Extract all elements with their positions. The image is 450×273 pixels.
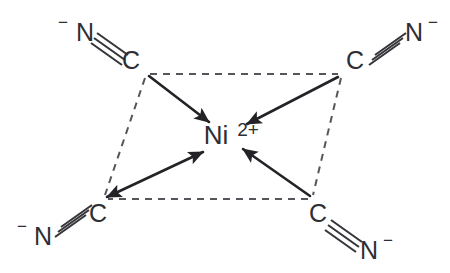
- ligand-bottom-left-charge: −: [17, 217, 27, 236]
- structure-figure: − N C C N − − N: [0, 0, 450, 273]
- coordination-diagram: − N C C N − − N: [0, 0, 450, 273]
- ligand-top-right-nitrogen: N: [405, 18, 423, 46]
- ligand-bottom-right-charge: −: [383, 231, 393, 250]
- ligand-bottom-left-carbon: C: [89, 199, 107, 227]
- ligand-bottom-right-nitrogen: N: [360, 236, 378, 264]
- ligand-top-left-charge: −: [58, 13, 68, 32]
- nickel-charge: 2+: [237, 119, 259, 140]
- ligand-top-right-carbon: C: [346, 46, 364, 74]
- ligand-bottom-right-carbon: C: [309, 199, 327, 227]
- nickel-symbol: Ni: [204, 120, 229, 150]
- ligand-top-left-nitrogen: N: [76, 18, 94, 46]
- ligand-top-right-charge: −: [428, 13, 438, 32]
- ligand-top-left-carbon: C: [122, 46, 140, 74]
- ligand-bottom-left-nitrogen: N: [34, 222, 52, 250]
